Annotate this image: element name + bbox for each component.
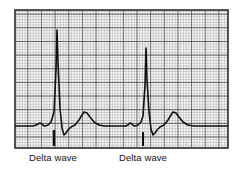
grid-major-lines xyxy=(15,10,228,148)
ecg-figure: Delta wave Delta wave xyxy=(0,0,244,173)
ecg-grid xyxy=(15,10,228,148)
ecg-chart xyxy=(0,0,244,173)
